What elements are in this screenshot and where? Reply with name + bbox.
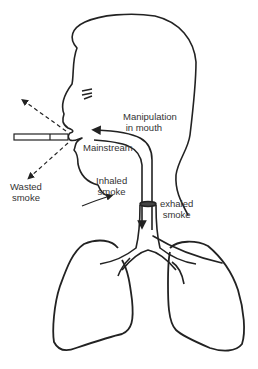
eye-icon	[82, 89, 92, 99]
label-wasted-smoke: Wasted smoke	[10, 181, 42, 203]
label-manipulation-in-mouth: Manipulation in mouth	[123, 111, 177, 133]
label-mainstream: Mainstream	[83, 142, 133, 153]
label-exhaled-smoke: exhaled smoke	[160, 198, 193, 220]
label-inhaled-smoke: Inhaled smoke	[96, 175, 127, 197]
cigarette	[14, 134, 68, 140]
inhaled-arrow	[82, 196, 110, 206]
